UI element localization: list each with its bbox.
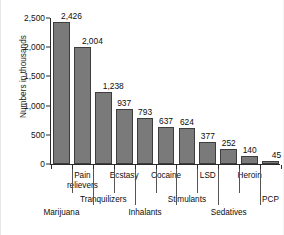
bar [53, 22, 70, 164]
x-tick-mark [51, 165, 52, 169]
bar-value-label: 140 [243, 145, 257, 155]
bar-value-label: 1,238 [103, 81, 124, 91]
y-axis: Numbers in thousands 05001,0001,5002,000… [0, 0, 50, 235]
category-separator [114, 169, 115, 193]
plot-area: 2,4262,0041,23893779363762437725214045 [50, 18, 280, 165]
category-label: Painrelievers [59, 171, 105, 190]
frame-right-edge [283, 0, 284, 235]
category-separator [135, 169, 136, 193]
group-label: Sedatives [211, 208, 247, 217]
bar-value-label: 252 [222, 138, 236, 148]
bar [241, 156, 258, 164]
y-axis-line [50, 18, 51, 165]
group-label: Tranquilizers [80, 195, 127, 204]
group-label: PCP [262, 195, 279, 204]
bar [74, 47, 91, 164]
group-label: Stimulants [168, 195, 206, 204]
bar-value-label: 2,426 [61, 11, 82, 21]
category-axis: PainrelieversEcstasyCocaineLSDHeroinTran… [50, 165, 280, 235]
bar-value-label: 793 [138, 107, 152, 117]
category-label: Heroin [238, 171, 262, 181]
group-separator [218, 193, 219, 205]
bar-value-label: 637 [159, 116, 173, 126]
y-tick-label: 2,000 [24, 42, 45, 52]
category-separator [156, 169, 157, 193]
category-separator [218, 169, 219, 193]
bar [137, 118, 154, 164]
y-tick-label: 2,500 [24, 13, 45, 23]
category-separator [239, 169, 240, 193]
bar [95, 92, 112, 164]
category-separator [260, 169, 261, 193]
group-label: Inhalants [128, 208, 161, 217]
y-tick-label: 1,500 [24, 71, 45, 81]
bar [262, 161, 279, 164]
bar-chart: Numbers in thousands 05001,0001,5002,000… [0, 0, 284, 235]
category-separator [176, 169, 177, 193]
bar-value-label: 2,004 [82, 36, 103, 46]
group-label: Marijuana [43, 208, 79, 217]
group-separator [93, 193, 94, 205]
group-separator [176, 193, 177, 205]
category-separator [93, 169, 94, 193]
group-separator [135, 193, 136, 205]
y-tick-label: 0 [40, 159, 45, 169]
bar [158, 127, 175, 164]
bar [199, 142, 216, 164]
bar-value-label: 937 [117, 98, 131, 108]
bar-value-label: 377 [201, 131, 215, 141]
x-tick-mark [281, 165, 282, 169]
bar [220, 149, 237, 164]
category-separator [197, 169, 198, 193]
category-label: LSD [200, 171, 216, 181]
y-tick-label: 500 [31, 130, 45, 140]
y-tick-label: 1,000 [24, 101, 45, 111]
group-separator [260, 193, 261, 205]
bar-value-label: 45 [272, 150, 281, 160]
bar-value-label: 624 [180, 117, 194, 127]
category-separator [72, 169, 73, 193]
bar [179, 128, 196, 164]
bar [116, 109, 133, 164]
